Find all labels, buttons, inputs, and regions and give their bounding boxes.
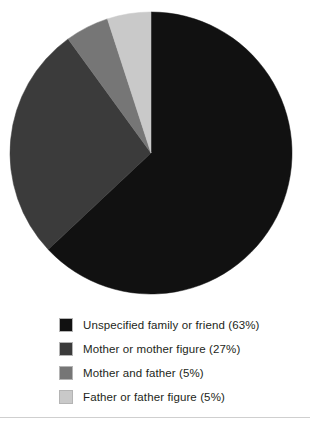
legend-swatch-3 [59,366,73,380]
legend-swatch-4 [59,390,73,404]
legend-label-4: Father or father figure (5%) [83,390,225,404]
pie-chart-svg: Unspecified family or friend (63%)Mother… [0,0,310,306]
legend-label-1: Unspecified family or friend (63%) [83,318,259,332]
legend-item-1[interactable]: Unspecified family or friend (63%) [59,316,259,334]
chart-legend: Unspecified family or friend (63%)Mother… [0,312,310,416]
pie-chart-plot-area: Unspecified family or friend (63%)Mother… [0,0,310,306]
pie-chart-figure: Unspecified family or friend (63%)Mother… [0,0,310,429]
legend-swatch-1 [59,318,73,332]
legend-label-2: Mother or mother figure (27%) [83,342,240,356]
legend-item-2[interactable]: Mother or mother figure (27%) [59,340,240,358]
legend-item-4[interactable]: Father or father figure (5%) [59,388,225,406]
legend-item-3[interactable]: Mother and father (5%) [59,364,204,382]
footer-divider [0,417,310,418]
legend-swatch-2 [59,342,73,356]
legend-label-3: Mother and father (5%) [83,366,204,380]
